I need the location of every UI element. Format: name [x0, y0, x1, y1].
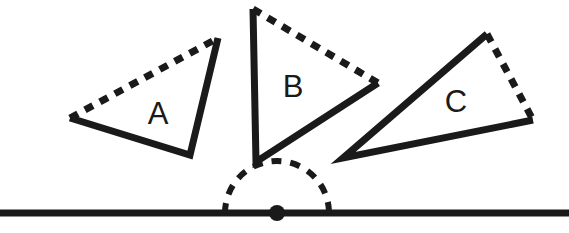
center-of-rotation-dot: [269, 205, 285, 221]
triangle-c-dashed-edge: [487, 34, 533, 120]
triangle-b: B: [253, 9, 378, 162]
triangle-a-label: A: [148, 96, 169, 131]
triangle-c-solid-edges: [343, 34, 533, 158]
triangle-a-solid-edges: [70, 38, 218, 155]
geometry-diagram: A B C: [0, 0, 569, 233]
triangle-a: A: [70, 38, 218, 155]
triangle-c: C: [343, 34, 533, 158]
figure-canvas: A B C: [0, 0, 569, 233]
triangle-b-dashed-edge: [253, 9, 378, 83]
triangle-a-dashed-edge: [70, 38, 218, 118]
triangle-c-label: C: [445, 84, 467, 119]
triangle-b-label: B: [283, 69, 304, 104]
triangle-b-solid-edges: [253, 9, 378, 162]
